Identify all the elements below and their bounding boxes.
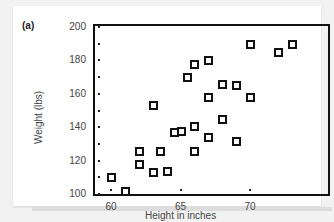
data-point [149,101,158,110]
x-tick-label: 60 [101,201,121,212]
data-point [177,127,186,136]
marginal-dot [98,160,100,162]
data-point [163,167,172,176]
data-point [204,133,213,142]
x-tick-label: 70 [240,201,260,212]
data-point [204,56,213,65]
data-point [246,40,255,49]
y-tick-label: 160 [60,88,86,99]
data-point [288,40,297,49]
data-point [190,60,199,69]
marginal-dot [98,76,100,78]
data-point [246,93,255,102]
y-tick-label: 100 [60,188,86,199]
y-tick-label: 120 [60,155,86,166]
data-point [121,187,130,196]
marginal-dot [98,59,100,61]
plot-area [93,24,330,196]
marginal-dot [98,193,100,195]
data-point [190,147,199,156]
y-axis-label: Weight (lbs) [33,78,44,158]
marginal-dot [98,126,100,128]
marginal-dot [98,110,100,112]
data-point [232,137,241,146]
marginal-dot [98,176,100,178]
data-point [183,73,192,82]
data-point [218,115,227,124]
marginal-dot [110,189,112,191]
data-point [274,48,283,57]
y-tick-label: 140 [60,121,86,132]
marginal-dot [98,93,100,95]
marginal-dot [98,26,100,28]
data-point [204,93,213,102]
data-point [156,147,165,156]
marginal-dot [98,143,100,145]
data-point [107,173,116,182]
data-point [135,147,144,156]
data-point [149,168,158,177]
data-point [218,80,227,89]
x-axis-label: Height in inches [145,210,216,221]
y-tick-label: 180 [60,54,86,65]
data-point [232,81,241,90]
y-tick-label: 200 [60,21,86,32]
data-point [190,122,199,131]
marginal-dot [98,43,100,45]
marginal-dot [249,189,251,191]
panel-label: (a) [22,20,34,31]
marginal-dot [180,189,182,191]
data-point [135,160,144,169]
